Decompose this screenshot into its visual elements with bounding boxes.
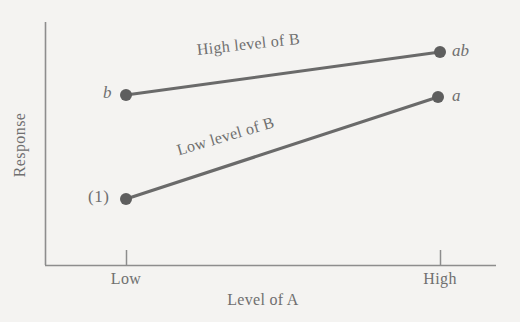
x-tick-label-low: Low — [96, 271, 156, 287]
x-axis-title: Level of A — [198, 292, 328, 308]
interaction-plot-figure: Response Level of A Low High High level … — [0, 0, 520, 322]
data-point-b — [120, 89, 132, 101]
data-point-label-one: (1) — [88, 188, 109, 205]
x-tick-label-high: High — [410, 271, 470, 287]
data-point-a — [432, 91, 444, 103]
x-axis-title-text: Level of — [227, 291, 287, 308]
series-line-low-level-b — [126, 97, 438, 199]
data-point-label-b: b — [103, 84, 112, 101]
y-axis-title: Response — [0, 125, 65, 165]
x-axis-title-factor: A — [287, 291, 299, 308]
data-point-ab — [434, 46, 446, 58]
series-label-high-factor: B — [288, 30, 301, 48]
data-point-one — [120, 193, 132, 205]
series-line-high-level-b — [126, 52, 440, 95]
data-point-label-ab: ab — [452, 42, 469, 59]
data-point-label-a: a — [452, 87, 461, 104]
